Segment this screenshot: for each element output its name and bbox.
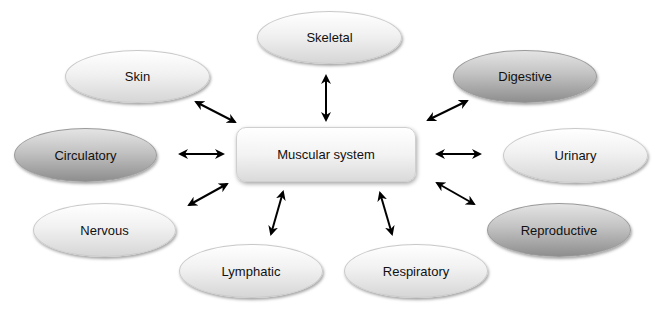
muscular-system-node: Muscular system [236,127,416,182]
lymphatic-label: Lymphatic [222,264,281,279]
urinary-label: Urinary [555,148,597,163]
nervous-node: Nervous [33,203,176,257]
skin-label: Skin [125,69,150,84]
circulatory-label: Circulatory [54,148,116,163]
digestive-label: Digestive [498,69,551,84]
arrow-digestive [428,101,467,120]
nervous-label: Nervous [80,223,128,238]
arrow-lymphatic [271,192,283,234]
arrow-respiratory [380,193,392,234]
skeletal-label: Skeletal [306,30,352,45]
arrow-reproductive [437,183,474,204]
reproductive-node: Reproductive [487,203,631,257]
digestive-node: Digestive [453,50,597,103]
reproductive-label: Reproductive [521,223,598,238]
circulatory-node: Circulatory [14,128,157,182]
skin-node: Skin [65,50,210,103]
muscular-system-label: Muscular system [277,147,375,162]
lymphatic-node: Lymphatic [179,244,323,298]
urinary-node: Urinary [503,128,648,183]
skeletal-node: Skeletal [257,11,402,64]
arrow-nervous [189,184,227,205]
respiratory-label: Respiratory [383,264,449,279]
arrow-skin [196,102,235,122]
respiratory-node: Respiratory [344,244,488,298]
